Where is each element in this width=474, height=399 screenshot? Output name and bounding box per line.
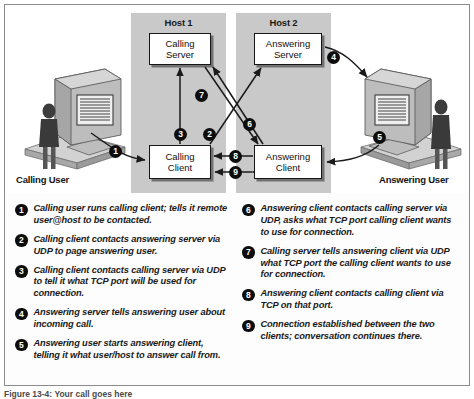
node-answering-client: Answering Client bbox=[254, 145, 322, 179]
legend-text: Connection established between the two c… bbox=[261, 319, 460, 343]
legend-badge: 7 bbox=[242, 246, 255, 259]
node-calling-server-line1: Calling bbox=[165, 38, 194, 49]
diagram-badge-7: 7 bbox=[195, 89, 208, 102]
legend-item: 5 Answering user starts answering client… bbox=[15, 338, 232, 362]
legend-text: Calling client contacts answering server… bbox=[34, 234, 233, 258]
legend-item: 9 Connection established between the two… bbox=[242, 319, 459, 343]
figure-panel: Host 1 Host 2 bbox=[4, 4, 470, 386]
legend-text: Calling user runs calling client; tells … bbox=[34, 203, 233, 227]
legend-badge: 2 bbox=[15, 234, 28, 247]
legend-text: Answering client contacts calling server… bbox=[261, 203, 460, 239]
legend-item: 1 Calling user runs calling client; tell… bbox=[15, 203, 232, 227]
network-call-flow-diagram: Host 1 Host 2 bbox=[5, 5, 469, 193]
diagram-badge-9: 9 bbox=[229, 166, 242, 179]
diagram-badge-5: 5 bbox=[373, 131, 386, 144]
node-answering-client-line1: Answering bbox=[266, 151, 310, 162]
legend-badge: 9 bbox=[242, 320, 255, 333]
figure-caption: Figure 13-4: Your call goes here bbox=[4, 389, 304, 399]
legend-text: Calling server tells answering client vi… bbox=[261, 246, 460, 282]
legend-item: 6 Answering client contacts calling serv… bbox=[242, 203, 459, 239]
legend: 1 Calling user runs calling client; tell… bbox=[5, 195, 469, 385]
legend-text: Answering user starts answering client, … bbox=[34, 338, 233, 362]
diagram-badge-3: 3 bbox=[174, 128, 187, 141]
node-answering-server-line1: Answering bbox=[266, 38, 310, 49]
diagram-badge-1: 1 bbox=[109, 145, 122, 158]
legend-item: 2 Calling client contacts answering serv… bbox=[15, 234, 232, 258]
diagram-badge-6: 6 bbox=[243, 118, 256, 131]
node-answering-client-line2: Client bbox=[276, 162, 300, 173]
legend-item: 8 Answering client contacts calling clie… bbox=[242, 288, 459, 312]
legend-text: Calling client contacts calling server v… bbox=[34, 265, 233, 301]
legend-item: 7 Calling server tells answering client … bbox=[242, 246, 459, 282]
legend-text: Answering server tells answering user ab… bbox=[34, 307, 233, 331]
diagram-badge-2: 2 bbox=[203, 128, 216, 141]
node-calling-client-line1: Calling bbox=[165, 151, 194, 162]
diagram-badge-8: 8 bbox=[229, 150, 242, 163]
node-answering-server-line2: Server bbox=[274, 49, 302, 60]
legend-item: 3 Calling client contacts calling server… bbox=[15, 265, 232, 301]
legend-badge: 3 bbox=[15, 265, 28, 278]
legend-badge: 1 bbox=[15, 204, 28, 217]
diagram-arrows bbox=[5, 5, 469, 193]
legend-badge: 5 bbox=[15, 339, 28, 352]
legend-badge: 6 bbox=[242, 204, 255, 217]
legend-column-right: 6 Answering client contacts calling serv… bbox=[242, 203, 459, 385]
node-calling-client: Calling Client bbox=[149, 145, 211, 179]
node-calling-server: Calling Server bbox=[149, 33, 211, 65]
node-answering-server: Answering Server bbox=[254, 33, 322, 65]
node-calling-client-line2: Client bbox=[168, 162, 192, 173]
diagram-badge-4: 4 bbox=[327, 51, 340, 64]
legend-badge: 8 bbox=[242, 289, 255, 302]
node-calling-server-line2: Server bbox=[166, 49, 194, 60]
legend-item: 4 Answering server tells answering user … bbox=[15, 307, 232, 331]
legend-column-left: 1 Calling user runs calling client; tell… bbox=[15, 203, 232, 385]
legend-text: Answering client contacts calling client… bbox=[261, 288, 460, 312]
legend-badge: 4 bbox=[15, 308, 28, 321]
